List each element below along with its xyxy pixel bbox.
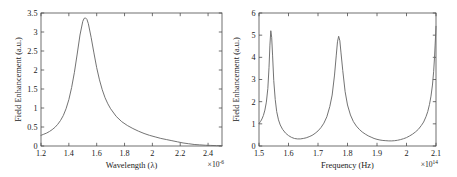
y-tick-label: 1.5 [27,85,37,94]
chart-panel-frequency: 1.51.61.71.81.922.10123456Frequency (Hz)… [228,0,457,177]
y-tick-label: 5 [251,31,255,40]
exponent-prefix: ×10 [421,160,433,169]
x-tick-label: 2.1 [431,149,441,158]
x-tick-label: 1.8 [342,149,352,158]
y-tick-label: 4 [251,53,255,62]
y-tick-label: 1 [251,120,255,129]
x-tick-label: 2 [404,149,408,158]
frequency-plot-svg: 1.51.61.71.81.922.10123456Frequency (Hz)… [228,0,457,177]
y-axis-label: Field Enhancement (a.u.) [14,37,23,122]
exponent-prefix: ×10 [208,160,220,169]
x-axis-label: Frequency (Hz) [321,161,374,170]
y-axis-label: Field Enhancement (a.u.) [232,37,241,122]
exponent-value: 14 [433,159,439,165]
wavelength-plot-svg: 1.21.41.61.822.22.400.511.522.533.5Wavel… [0,0,229,177]
plot-frame [41,13,222,146]
y-tick-label: 2 [33,66,37,75]
x-axis-label: Wavelength (λ) [106,161,158,170]
chart-panel-wavelength: 1.21.41.61.822.22.400.511.522.533.5Wavel… [0,0,229,177]
x-tick-label: 2.2 [175,149,185,158]
plot-frame [259,13,436,146]
y-tick-label: 3.5 [27,9,37,18]
x-tick-label: 1.8 [119,149,129,158]
y-tick-label: 3 [251,75,255,84]
y-tick-label: 0.5 [27,123,37,132]
x-tick-label: 1.7 [313,149,323,158]
y-tick-label: 2 [251,98,255,107]
y-tick-label: 2.5 [27,47,37,56]
y-tick-label: 0 [33,142,37,151]
x-tick-label: 1.9 [372,149,382,158]
x-tick-label: 1.6 [283,149,293,158]
y-tick-label: 3 [33,28,37,37]
data-curve [259,26,436,141]
x-axis-exponent: ×1014 [421,159,439,169]
x-tick-label: 2.4 [203,149,213,158]
figure-container: 1.21.41.61.822.22.400.511.522.533.5Wavel… [0,0,457,177]
y-tick-label: 1 [33,104,37,113]
data-curve [41,18,222,146]
x-tick-label: 2 [150,149,154,158]
x-axis-exponent: ×10-6 [208,159,225,169]
x-tick-label: 1.4 [64,149,74,158]
x-tick-label: 1.6 [92,149,102,158]
y-tick-label: 6 [251,9,255,18]
exponent-value: -6 [220,159,225,165]
y-tick-label: 0 [251,142,255,151]
